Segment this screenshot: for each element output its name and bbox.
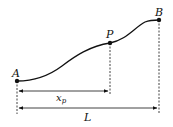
curve — [17, 20, 159, 81]
point-p — [108, 41, 112, 45]
curve-diagram: A P B xp L — [0, 0, 173, 127]
label-xp: xp — [56, 92, 67, 105]
label-l: L — [83, 111, 91, 124]
label-p: P — [105, 28, 114, 41]
label-a: A — [11, 67, 20, 80]
label-b: B — [154, 6, 163, 19]
